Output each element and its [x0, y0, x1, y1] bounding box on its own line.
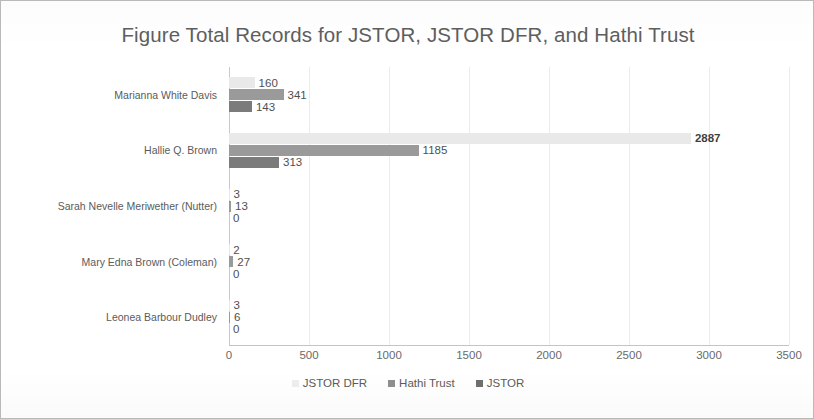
x-tick-label: 3000	[696, 349, 722, 361]
bar-value-label: 0	[229, 323, 239, 335]
bar-group: 3130	[229, 189, 789, 224]
bar-row: 6	[229, 312, 789, 323]
bar-row: 2887	[229, 133, 789, 144]
x-axis-tick-labels: 0500100015002000250030003500	[229, 349, 789, 367]
bar-row: 13	[229, 201, 789, 212]
bar-group: 160341143	[229, 77, 789, 112]
x-tick-label: 3500	[776, 349, 802, 361]
legend-item[interactable]: JSTOR	[476, 377, 525, 389]
plot-area: 1603411432887118531331302270360	[229, 67, 789, 345]
legend-item[interactable]: Hathi Trust	[388, 377, 455, 389]
bar-value-label: 143	[252, 101, 275, 113]
bar-row: 0	[229, 324, 789, 335]
legend-item[interactable]: JSTOR DFR	[292, 377, 367, 389]
chart-legend: JSTOR DFRHathi TrustJSTOR	[1, 377, 814, 389]
category-label: Marianna White Davis	[114, 90, 217, 101]
bar-row: 143	[229, 101, 789, 112]
category-label: Mary Edna Brown (Coleman)	[82, 256, 217, 267]
legend-swatch-icon	[292, 380, 299, 387]
bar-value-label: 341	[284, 89, 307, 101]
category-label: Hallie Q. Brown	[144, 145, 217, 156]
x-tick-label: 500	[299, 349, 318, 361]
bar-hathi-trust	[229, 89, 284, 100]
chart-title: Figure Total Records for JSTOR, JSTOR DF…	[1, 23, 814, 47]
bar-jstor-dfr	[229, 133, 691, 144]
bar-row: 3	[229, 189, 789, 200]
legend-swatch-icon	[476, 380, 483, 387]
legend-swatch-icon	[388, 380, 395, 387]
bar-row: 2	[229, 244, 789, 255]
bar-value-label: 1185	[419, 144, 448, 156]
gridline-3500	[789, 67, 790, 345]
bar-row: 160	[229, 77, 789, 88]
bar-row: 3	[229, 300, 789, 311]
bar-hathi-trust	[229, 145, 419, 156]
x-axis-line	[229, 345, 789, 346]
bar-value-label: 3	[229, 299, 239, 311]
category-label: Leonea Barbour Dudley	[106, 312, 217, 323]
bar-value-label: 2887	[691, 132, 721, 144]
bar-group: 2270	[229, 244, 789, 279]
bar-row: 27	[229, 256, 789, 267]
bar-value-label: 313	[279, 156, 302, 168]
legend-label: Hathi Trust	[399, 377, 455, 389]
bar-value-label: 6	[230, 311, 240, 323]
bar-value-label: 160	[255, 77, 278, 89]
bar-row: 0	[229, 213, 789, 224]
bar-row: 341	[229, 89, 789, 100]
bar-value-label: 2	[229, 244, 239, 256]
x-tick-label: 2500	[616, 349, 642, 361]
bar-group: 360	[229, 300, 789, 335]
chart-figure: Figure Total Records for JSTOR, JSTOR DF…	[0, 0, 814, 419]
bar-jstor-dfr	[229, 77, 255, 88]
x-tick-label: 2000	[536, 349, 562, 361]
category-label: Sarah Nevelle Meriwether (Nutter)	[58, 201, 217, 212]
bar-value-label: 27	[233, 256, 250, 268]
bar-value-label: 0	[229, 268, 239, 280]
bar-jstor	[229, 101, 252, 112]
bar-row: 0	[229, 268, 789, 279]
bar-value-label: 0	[229, 212, 239, 224]
bar-row: 1185	[229, 145, 789, 156]
bar-jstor	[229, 157, 279, 168]
bar-row: 313	[229, 157, 789, 168]
x-tick-label: 0	[226, 349, 232, 361]
x-tick-label: 1000	[376, 349, 402, 361]
bar-group: 28871185313	[229, 133, 789, 168]
x-tick-label: 1500	[456, 349, 482, 361]
legend-label: JSTOR	[487, 377, 525, 389]
category-axis: Marianna White DavisHallie Q. BrownSarah…	[1, 67, 225, 345]
legend-label: JSTOR DFR	[303, 377, 367, 389]
bar-value-label: 3	[229, 188, 239, 200]
bar-value-label: 13	[231, 200, 248, 212]
